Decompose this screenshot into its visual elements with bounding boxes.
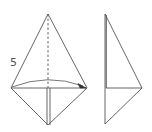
fold-arrow-curve bbox=[12, 80, 83, 87]
folded-result-outline bbox=[105, 14, 142, 124]
origami-diagram bbox=[0, 0, 152, 132]
kite-outline bbox=[11, 14, 87, 125]
